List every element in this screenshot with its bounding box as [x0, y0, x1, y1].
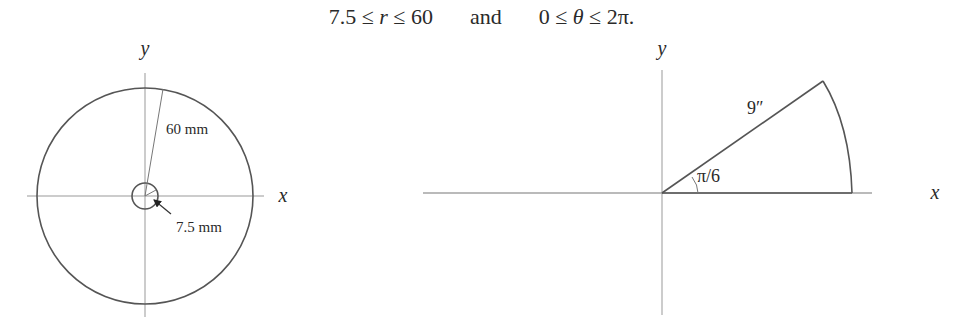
sector-radius-top [662, 81, 823, 193]
outer-radius-label: 60 mm [166, 121, 208, 137]
inner-radius-arrow [154, 200, 171, 214]
outer-radius-line [145, 89, 163, 196]
inner-radius-label: 7.5 mm [176, 219, 222, 235]
y-axis-label: y [656, 37, 667, 60]
x-axis-label: x [278, 184, 288, 206]
sector-diagram: y x 9″ π/6 [423, 37, 940, 315]
diagrams-canvas: y x 60 mm 7.5 mm y x 9″ π/6 [0, 0, 963, 335]
radius-label: 9″ [747, 98, 764, 118]
annulus-diagram: y x 60 mm 7.5 mm [27, 37, 288, 317]
y-axis-label: y [139, 37, 150, 60]
inner-radius-line [145, 190, 156, 196]
sector-arc [823, 81, 852, 193]
x-axis-label: x [930, 181, 940, 203]
angle-label: π/6 [697, 166, 720, 186]
